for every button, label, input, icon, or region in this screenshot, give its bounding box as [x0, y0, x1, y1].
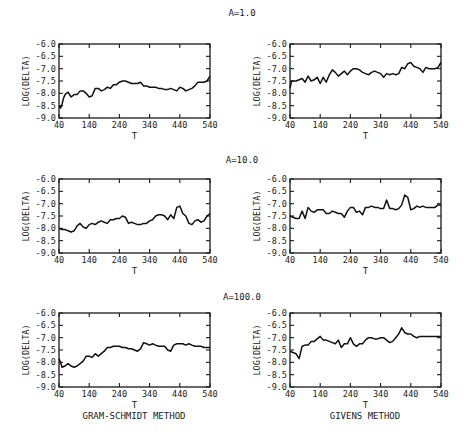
x-tick-label: 440: [172, 255, 187, 265]
x-tick-label: 440: [403, 255, 418, 265]
caption-givens: GIVENS METHOD: [330, 411, 400, 421]
caption-gram-schmidt: GRAM-SCHMIDT METHOD: [83, 411, 186, 421]
y-axis-label: LOG(DELTA): [252, 324, 262, 375]
panel-givens-a1: -6.0-6.5-7.0-7.5-8.0-8.5-9.0401402403404…: [252, 39, 449, 141]
y-tick-label: -6.5: [36, 186, 56, 196]
y-tick-label: -6.0: [36, 174, 56, 184]
y-tick-label: -8.5: [36, 236, 56, 246]
y-tick-label: -7.0: [36, 64, 56, 74]
x-tick-label: 40: [285, 255, 295, 265]
x-tick-label: 440: [172, 120, 187, 130]
plot-frame: [290, 179, 441, 253]
x-tick-label: 140: [82, 120, 97, 130]
data-series-line: [59, 343, 210, 368]
row-title-a10: A=10.0: [226, 155, 259, 165]
x-tick-label: 140: [313, 120, 328, 130]
y-tick-label: -6.5: [267, 186, 287, 196]
row-title-a1: A=1.0: [228, 8, 255, 18]
y-tick-label: -8.0: [267, 223, 287, 233]
x-axis-label: T: [363, 131, 369, 141]
row-title-a100: A=100.0: [223, 292, 261, 302]
y-tick-label: -8.0: [36, 223, 56, 233]
y-axis-label: LOG(DELTA): [21, 55, 31, 106]
y-tick-label: -8.5: [267, 236, 287, 246]
y-tick-label: -7.0: [267, 64, 287, 74]
y-tick-label: -7.5: [267, 345, 287, 355]
x-axis-label: T: [132, 400, 138, 410]
y-tick-label: -6.0: [36, 39, 56, 49]
x-tick-label: 40: [285, 120, 295, 130]
x-tick-label: 340: [373, 255, 388, 265]
x-tick-label: 440: [403, 120, 418, 130]
y-tick-label: -6.0: [267, 39, 287, 49]
x-tick-label: 540: [202, 120, 217, 130]
y-tick-label: -8.5: [267, 101, 287, 111]
data-series-line: [290, 195, 441, 219]
x-tick-label: 440: [172, 389, 187, 399]
y-tick-label: -7.5: [36, 211, 56, 221]
x-tick-label: 340: [142, 120, 157, 130]
x-tick-label: 40: [285, 389, 295, 399]
x-axis-label: T: [363, 266, 369, 276]
y-tick-label: -7.0: [267, 199, 287, 209]
y-tick-label: -6.5: [36, 320, 56, 330]
x-tick-label: 240: [343, 389, 358, 399]
y-tick-label: -6.5: [267, 51, 287, 61]
x-tick-label: 140: [313, 389, 328, 399]
panel-givens-a100: -6.0-6.5-7.0-7.5-8.0-8.5-9.0401402403404…: [252, 308, 449, 410]
panel-gram-schmidt-a1: -6.0-6.5-7.0-7.5-8.0-8.5-9.0401402403404…: [21, 39, 218, 141]
plot-frame: [290, 313, 441, 387]
x-tick-label: 240: [112, 120, 127, 130]
x-tick-label: 340: [373, 120, 388, 130]
x-tick-label: 140: [313, 255, 328, 265]
x-tick-label: 540: [202, 389, 217, 399]
y-tick-label: -6.0: [267, 174, 287, 184]
figure-canvas: A=1.0 A=10.0 A=100.0 -6.0-6.5-7.0-7.5-8.…: [0, 0, 466, 440]
x-tick-label: 40: [54, 120, 64, 130]
x-tick-label: 140: [82, 255, 97, 265]
panel-givens-a10: -6.0-6.5-7.0-7.5-8.0-8.5-9.0401402403404…: [252, 174, 449, 276]
y-tick-label: -8.0: [267, 357, 287, 367]
data-series-line: [59, 76, 210, 108]
y-tick-label: -7.5: [267, 76, 287, 86]
x-tick-label: 540: [433, 120, 448, 130]
y-tick-label: -8.0: [267, 88, 287, 98]
panel-gram-schmidt-a100: -6.0-6.5-7.0-7.5-8.0-8.5-9.0401402403404…: [21, 308, 218, 410]
y-tick-label: -8.0: [36, 357, 56, 367]
x-tick-label: 240: [343, 120, 358, 130]
x-axis-label: T: [363, 400, 369, 410]
y-tick-label: -7.5: [36, 76, 56, 86]
y-tick-label: -8.5: [36, 370, 56, 380]
x-tick-label: 540: [202, 255, 217, 265]
x-tick-label: 540: [433, 255, 448, 265]
x-tick-label: 240: [343, 255, 358, 265]
y-tick-label: -7.5: [36, 345, 56, 355]
x-tick-label: 340: [373, 389, 388, 399]
y-tick-label: -7.0: [36, 333, 56, 343]
x-tick-label: 340: [142, 255, 157, 265]
x-tick-label: 340: [142, 389, 157, 399]
x-tick-label: 240: [112, 389, 127, 399]
x-tick-label: 40: [54, 255, 64, 265]
x-tick-label: 540: [433, 389, 448, 399]
y-tick-label: -6.5: [36, 51, 56, 61]
plot-frame: [59, 44, 210, 118]
plot-frame: [59, 179, 210, 253]
data-series-line: [59, 206, 210, 232]
y-tick-label: -7.0: [267, 333, 287, 343]
y-tick-label: -7.0: [36, 199, 56, 209]
y-tick-label: -8.5: [36, 101, 56, 111]
y-tick-label: -8.5: [267, 370, 287, 380]
x-tick-label: 40: [54, 389, 64, 399]
y-axis-label: LOG(DELTA): [252, 190, 262, 241]
y-axis-label: LOG(DELTA): [21, 190, 31, 241]
y-axis-label: LOG(DELTA): [21, 324, 31, 375]
y-tick-label: -8.0: [36, 88, 56, 98]
y-axis-label: LOG(DELTA): [252, 55, 262, 106]
x-tick-label: 140: [82, 389, 97, 399]
x-tick-label: 440: [403, 389, 418, 399]
x-axis-label: T: [132, 266, 138, 276]
y-tick-label: -6.0: [267, 308, 287, 318]
y-tick-label: -6.0: [36, 308, 56, 318]
data-series-line: [290, 63, 441, 89]
